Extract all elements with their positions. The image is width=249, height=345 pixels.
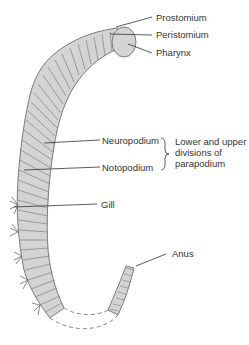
- dashed-body-outline-outer: [50, 315, 118, 329]
- parapodium-note-line2: divisions of: [175, 147, 246, 158]
- parapodium-note-line1: Lower and upper: [175, 136, 246, 147]
- parapodium-note: Lower and upper divisions of parapodium: [175, 136, 246, 169]
- leader-prostomium: [116, 17, 152, 27]
- head-lobe: [112, 27, 136, 57]
- label-gill: Gill: [101, 199, 115, 210]
- dashed-body-outline: [64, 308, 108, 315]
- label-prostomium: Prostomium: [156, 12, 207, 23]
- leader-anus: [136, 254, 166, 266]
- label-peristomium: Peristomium: [156, 29, 209, 40]
- label-neuropodium: Neuropodium: [102, 135, 159, 146]
- label-anus: Anus: [172, 248, 194, 259]
- label-pharynx: Pharynx: [156, 47, 191, 58]
- parapodium-note-line3: parapodium: [175, 158, 246, 169]
- label-notopodium: Notopodium: [102, 162, 153, 173]
- worm-tail: [108, 266, 134, 315]
- bracket: [161, 138, 169, 170]
- worm-body: [17, 28, 118, 318]
